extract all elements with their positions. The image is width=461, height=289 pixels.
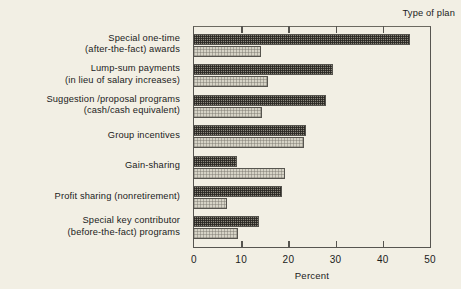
category-label: Special one-time(after-the-fact) awards	[85, 33, 180, 56]
category-label: Lump-sum payments(in lieu of salary incr…	[65, 63, 180, 86]
x-tick-bottom	[383, 241, 384, 248]
x-tick-top	[288, 26, 289, 33]
category-axis-header: Type of plan	[403, 8, 455, 18]
category-label-line1: Group incentives	[108, 130, 180, 140]
category-label-line1: Suggestion /proposal programs	[46, 94, 180, 104]
bar-using	[193, 186, 282, 197]
x-tick-top	[336, 26, 337, 33]
x-tick-top	[383, 26, 384, 33]
bar-considering	[193, 168, 285, 179]
x-tick-bottom	[288, 241, 289, 248]
x-tick-bottom	[336, 241, 337, 248]
plot-area: Percent using Percent considering	[193, 26, 431, 248]
x-tick-top	[241, 26, 242, 33]
bar-using	[193, 95, 326, 106]
x-tick-label: 0	[191, 254, 197, 265]
category-label-line2: (before-the-fact) programs	[68, 227, 180, 238]
bar-considering	[193, 76, 268, 87]
bar-considering	[193, 46, 261, 57]
category-label-line1: Profit sharing (nonretirement)	[55, 191, 180, 201]
bar-using	[193, 34, 410, 45]
category-label-group: Special one-time(after-the-fact) awardsL…	[0, 0, 186, 289]
chart-figure: Type of plan Special one-time(after-the-…	[0, 0, 461, 289]
bar-considering	[193, 228, 238, 239]
bar-using	[193, 64, 333, 75]
category-label: Gain-sharing	[125, 160, 180, 171]
x-tick-label: 20	[283, 254, 295, 265]
category-label-line1: Lump-sum payments	[91, 63, 180, 73]
x-tick-label: 40	[377, 254, 389, 265]
category-label: Group incentives	[108, 130, 180, 141]
category-label-line2: (after-the-fact) awards	[85, 44, 180, 55]
x-tick-label: 10	[235, 254, 247, 265]
bar-using	[193, 125, 306, 136]
x-tick-label: 50	[424, 254, 436, 265]
bar-using	[193, 216, 259, 227]
category-label: Special key contributor(before-the-fact)…	[68, 215, 180, 238]
bar-considering	[193, 198, 227, 209]
plot-inner	[194, 27, 430, 247]
category-label-line1: Special one-time	[108, 33, 180, 43]
bar-using	[193, 156, 237, 167]
bar-considering	[193, 137, 304, 148]
x-tick-label: 30	[330, 254, 342, 265]
category-label-line1: Special key contributor	[83, 215, 181, 225]
x-axis-title: Percent	[193, 270, 431, 281]
category-label: Suggestion /proposal programs(cash/cash …	[46, 94, 180, 117]
category-label: Profit sharing (nonretirement)	[55, 191, 180, 202]
category-label-line1: Gain-sharing	[125, 160, 180, 170]
category-label-line2: (in lieu of salary increases)	[65, 75, 180, 86]
bar-considering	[193, 107, 262, 118]
x-tick-bottom	[241, 241, 242, 248]
category-label-line2: (cash/cash equivalent)	[46, 105, 180, 116]
